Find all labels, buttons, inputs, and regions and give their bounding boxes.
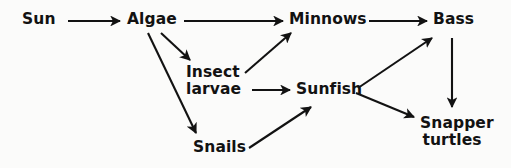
- arrow-sunfish-to-snapper-turtles: [356, 93, 414, 117]
- arrow-insect-larvae-to-minnows: [245, 33, 291, 73]
- node-minnows: Minnows: [289, 11, 367, 28]
- node-algae: Algae: [127, 11, 177, 28]
- arrow-sunfish-to-bass: [358, 38, 432, 88]
- node-bass: Bass: [433, 11, 474, 28]
- node-insect-larvae: Insect larvae: [186, 64, 241, 98]
- node-snapper-turtles: Snapper turtles: [420, 115, 484, 149]
- arrow-algae-to-insect-larvae: [161, 33, 190, 60]
- arrow-snails-to-sunfish: [249, 107, 311, 148]
- food-web-diagram: Sun Algae Minnows Bass Insect larvae Sun…: [0, 0, 511, 168]
- node-sun: Sun: [22, 11, 56, 28]
- node-sunfish: Sunfish: [296, 81, 362, 98]
- node-snails: Snails: [193, 139, 246, 156]
